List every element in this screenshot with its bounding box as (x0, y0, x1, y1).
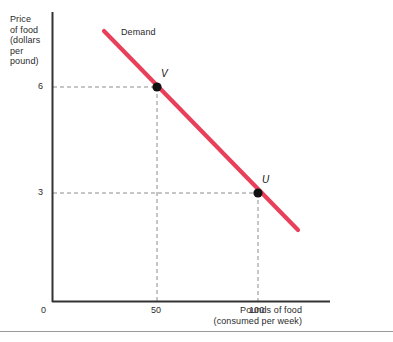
demand-curve-figure: Price of food (dollars per pound) Pounds… (0, 0, 393, 342)
data-point-v (152, 82, 161, 91)
demand-curve-label: Demand (121, 27, 156, 38)
chart-canvas (0, 0, 393, 342)
x-tick-label-50: 50 (151, 305, 161, 316)
y-tick-label-3: 3 (38, 187, 43, 198)
x-tick-label-0: 0 (41, 305, 46, 316)
data-point-u (253, 188, 262, 197)
y-axis-title: Price of food (dollars per pound) (10, 14, 40, 67)
bottom-divider (0, 331, 393, 332)
x-tick-label-100: 100 (249, 305, 264, 316)
data-point-label-v: V (161, 69, 168, 80)
data-point-label-u: U (262, 175, 269, 186)
demand-curve (104, 31, 298, 230)
y-tick-label-6: 6 (38, 81, 43, 92)
